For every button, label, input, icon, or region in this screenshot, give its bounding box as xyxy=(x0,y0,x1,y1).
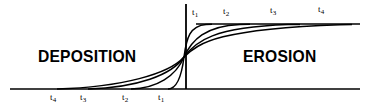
bottom-tick-label-t3: t3 xyxy=(80,93,86,102)
top-tick-t1-sub: 1 xyxy=(195,11,199,19)
top-tick-label-t4: t4 xyxy=(318,5,324,14)
bottom-tick-label-t4: t4 xyxy=(50,93,56,102)
top-tick-label-t2: t2 xyxy=(223,7,229,16)
bottom-tick-t2-sub: 2 xyxy=(125,96,129,104)
region-label-deposition: DEPOSITION xyxy=(38,47,136,67)
erosion-deposition-diagram: DEPOSITION EROSION t1 t2 t3 t4 t4 t3 t2 … xyxy=(0,0,370,111)
bottom-tick-t3-sub: 3 xyxy=(83,96,87,104)
top-tick-t4-sub: 4 xyxy=(321,8,325,16)
bottom-tick-t4-sub: 4 xyxy=(53,96,57,104)
top-tick-label-t1: t1 xyxy=(192,8,198,17)
curve-t1 xyxy=(168,24,212,89)
bottom-tick-label-t2: t2 xyxy=(122,93,128,102)
top-tick-label-t3: t3 xyxy=(270,6,276,15)
top-tick-t2-sub: 2 xyxy=(226,10,230,18)
region-label-erosion: EROSION xyxy=(243,47,316,67)
bottom-tick-label-t1: t1 xyxy=(158,93,164,102)
top-tick-t3-sub: 3 xyxy=(273,9,277,17)
bottom-tick-t1-sub: 1 xyxy=(161,96,165,104)
